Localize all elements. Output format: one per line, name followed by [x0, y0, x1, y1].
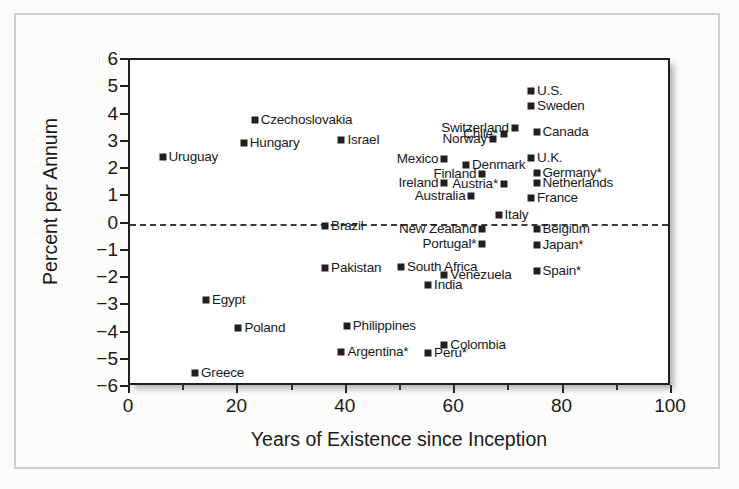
x-tick-minor — [507, 385, 509, 390]
data-point-marker — [468, 193, 475, 200]
x-tick-label: 80 — [551, 396, 572, 415]
y-axis-title: Percent per Annum — [39, 92, 62, 312]
y-tick-label: −4 — [72, 321, 118, 340]
data-point-marker — [322, 265, 329, 272]
y-tick-label: −3 — [72, 294, 118, 313]
y-tick — [120, 58, 128, 60]
data-point-marker — [511, 125, 518, 132]
data-point-label: Mexico — [397, 153, 439, 167]
data-point-marker — [159, 153, 166, 160]
y-tick — [120, 249, 128, 251]
data-point-marker — [202, 296, 209, 303]
x-tick-minor — [182, 385, 184, 390]
x-tick-minor — [291, 385, 293, 390]
data-point-label: Uruguay — [169, 150, 219, 164]
data-point-marker — [398, 264, 405, 271]
data-point-marker — [441, 179, 448, 186]
y-tick — [120, 113, 128, 115]
y-tick — [120, 167, 128, 169]
y-tick-label: 2 — [72, 158, 118, 177]
y-tick-label: 5 — [72, 76, 118, 95]
x-tick-label: 40 — [334, 396, 355, 415]
data-point-marker — [441, 156, 448, 163]
data-point-marker — [528, 194, 535, 201]
data-point-marker — [425, 349, 432, 356]
data-point-marker — [338, 348, 345, 355]
data-point-label: Norway — [443, 132, 488, 146]
x-tick — [236, 385, 238, 393]
y-tick-label: −1 — [72, 239, 118, 258]
plot-area: UruguayCzechoslovakiaHungaryIsraelU.S.Sw… — [128, 58, 670, 385]
data-point-marker — [500, 130, 507, 137]
x-axis-title: Years of Existence since Inception — [128, 428, 670, 451]
data-point-marker — [240, 140, 247, 147]
data-point-label: Greece — [201, 367, 244, 381]
data-point-marker — [533, 268, 540, 275]
data-point-label: Philippines — [353, 319, 416, 333]
data-point-label: India — [434, 278, 462, 292]
figure-root: 6543210−1−2−3−4−5−6 020406080100 Uruguay… — [0, 0, 739, 489]
y-tick — [120, 194, 128, 196]
y-tick-label: 1 — [72, 185, 118, 204]
x-tick — [670, 385, 672, 393]
data-point-marker — [528, 88, 535, 95]
data-point-marker — [500, 180, 507, 187]
data-point-label: Canada — [543, 125, 589, 139]
data-point-marker — [533, 242, 540, 249]
x-tick-minor — [616, 385, 618, 390]
data-point-marker — [528, 103, 535, 110]
data-point-marker — [533, 129, 540, 136]
data-point-label: Pakistan — [331, 262, 381, 276]
data-point-label: Argentina* — [347, 345, 408, 359]
data-point-label: Ireland — [398, 176, 438, 190]
data-point-label: U.K. — [537, 151, 562, 165]
x-tick — [128, 385, 130, 393]
data-point-marker — [322, 223, 329, 230]
y-tick — [120, 303, 128, 305]
scatter-chart: 6543210−1−2−3−4−5−6 020406080100 Uruguay… — [0, 0, 739, 489]
data-point-marker — [495, 212, 502, 219]
data-point-marker — [251, 116, 258, 123]
data-point-label: Australia — [415, 190, 466, 204]
data-point-label: Japan* — [543, 239, 584, 253]
data-point-label: Portugal* — [423, 237, 477, 251]
data-point-marker — [528, 155, 535, 162]
x-tick — [345, 385, 347, 393]
data-point-marker — [338, 137, 345, 144]
data-point-label: Poland — [244, 322, 285, 336]
data-point-label: Sweden — [537, 100, 585, 114]
y-tick — [120, 276, 128, 278]
data-point-label: Spain* — [543, 264, 582, 278]
y-tick — [120, 358, 128, 360]
y-tick-label: 3 — [72, 130, 118, 149]
y-tick-label: −6 — [72, 376, 118, 395]
y-tick — [120, 85, 128, 87]
y-tick — [120, 140, 128, 142]
x-tick-label: 20 — [226, 396, 247, 415]
data-point-marker — [533, 170, 540, 177]
data-point-label: Denmark — [472, 158, 525, 172]
data-point-marker — [235, 325, 242, 332]
data-point-label: Hungary — [250, 136, 300, 150]
data-point-label: Italy — [505, 209, 529, 223]
data-point-marker — [192, 370, 199, 377]
data-point-label: New Zealand — [399, 222, 476, 236]
data-point-label: Egypt — [212, 293, 246, 307]
data-point-marker — [479, 225, 486, 232]
data-point-label: Belgium — [543, 222, 590, 236]
y-tick — [120, 331, 128, 333]
data-point-marker — [425, 281, 432, 288]
data-point-label: Peru* — [434, 346, 467, 360]
x-tick-label: 100 — [654, 396, 686, 415]
y-tick-label: 0 — [72, 212, 118, 231]
data-point-label: Czechoslovakia — [261, 113, 353, 127]
data-point-label: U.S. — [537, 85, 562, 99]
x-tick-label: 60 — [443, 396, 464, 415]
y-tick-label: −5 — [72, 348, 118, 367]
y-tick — [120, 222, 128, 224]
y-tick-label: −2 — [72, 267, 118, 286]
x-tick-minor — [399, 385, 401, 390]
x-tick — [562, 385, 564, 393]
data-point-marker — [479, 240, 486, 247]
data-point-marker — [490, 136, 497, 143]
